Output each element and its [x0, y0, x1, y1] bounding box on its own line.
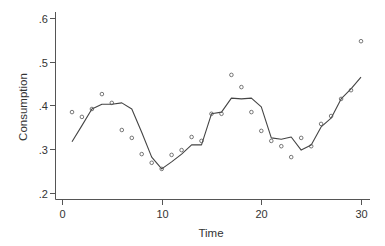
data-point	[140, 152, 144, 156]
data-point	[150, 161, 154, 165]
data-point	[80, 115, 84, 119]
data-point	[250, 110, 254, 114]
data-point	[100, 92, 104, 96]
data-point	[180, 148, 184, 152]
data-point	[260, 129, 264, 133]
y-tick-label: .6	[39, 13, 48, 25]
data-point	[240, 85, 244, 89]
data-point	[120, 128, 124, 132]
x-axis: 0102030	[56, 200, 371, 221]
data-point	[289, 155, 293, 159]
y-tick-label: .4	[39, 100, 48, 112]
data-point	[299, 136, 303, 140]
data-point	[319, 122, 323, 126]
data-point	[190, 135, 194, 139]
x-tick-label: 30	[355, 208, 367, 220]
data-point	[359, 39, 363, 43]
y-tick-label: .2	[39, 188, 48, 200]
data-point	[70, 110, 74, 114]
y-axis-title: Consumption	[17, 73, 29, 141]
data-point	[280, 144, 284, 148]
y-axis: .2.3.4.5.6	[39, 12, 56, 200]
data-point	[170, 153, 174, 157]
observed-points-series	[70, 39, 363, 170]
fitted-line-series	[72, 77, 361, 169]
data-point	[230, 73, 234, 77]
consumption-time-chart: .2.3.4.5.6 0102030 Time Consumption	[0, 0, 385, 246]
x-tick-label: 0	[59, 208, 65, 220]
x-tick-label: 20	[255, 208, 267, 220]
y-tick-label: .5	[39, 57, 48, 69]
data-point	[130, 136, 134, 140]
data-point	[270, 139, 274, 143]
y-tick-label: .3	[39, 144, 48, 156]
x-tick-label: 10	[156, 208, 168, 220]
x-axis-title: Time	[198, 227, 223, 239]
